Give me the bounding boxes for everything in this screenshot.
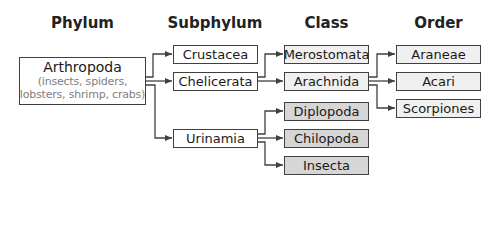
class-node-insecta: Insecta: [284, 156, 369, 175]
phylum-description-line1: (insects, spiders,: [38, 75, 128, 88]
order-node-araneae: Araneae: [396, 45, 481, 64]
phylum-node-arthropoda: Arthropoda (insects, spiders, lobsters, …: [19, 57, 146, 105]
phylum-name: Arthropoda: [43, 61, 122, 74]
class-node-diplopoda: Diplopoda: [284, 102, 369, 121]
order-node-acari: Acari: [396, 72, 481, 91]
phylum-description-line2: lobsters, shrimp, crabs): [20, 88, 145, 101]
class-node-merostomata: Merostomata: [284, 45, 369, 64]
class-node-chilopoda: Chilopoda: [284, 129, 369, 148]
subphylum-node-crustacea: Crustacea: [173, 45, 258, 64]
subphylum-node-chelicerata: Chelicerata: [173, 72, 258, 91]
subphylum-node-urinamia: Urinamia: [173, 129, 258, 148]
order-node-scorpiones: Scorpiones: [396, 99, 481, 118]
class-node-arachnida: Arachnida: [284, 72, 369, 91]
